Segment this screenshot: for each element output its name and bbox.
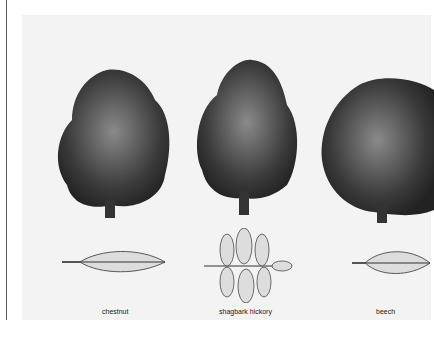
chestnut-tree-illustration [47,55,177,235]
shagbark-hickory-tree-illustration [187,50,302,235]
shagbark-hickory-leaf-illustration [202,228,297,303]
left-border-line [6,0,7,320]
chestnut-label: chestnut [102,308,128,315]
beech-leaf-illustration [350,247,432,279]
chestnut-leaf-illustration [60,247,170,277]
beech-label: beech [376,308,395,315]
beech-tree-illustration [314,60,434,240]
shagbark-hickory-label: shagbark hickory [219,308,272,315]
illustration-panel [22,15,431,320]
